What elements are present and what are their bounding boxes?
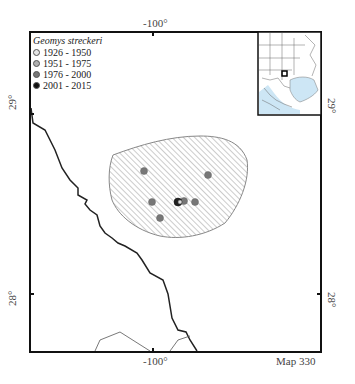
state-boundary — [95, 332, 150, 351]
left-latitude-28-label: 28° — [6, 291, 18, 306]
legend-item: 1951 - 1975 — [33, 58, 102, 69]
inset-map — [258, 32, 321, 115]
legend-item: 1926 - 1950 — [33, 47, 102, 58]
legend-item-label: 1926 - 1950 — [43, 47, 91, 58]
legend-item: 2001 - 2015 — [33, 80, 102, 91]
map-number-label: Map 330 — [276, 355, 315, 367]
bottom-longitude-label: -100° — [143, 355, 168, 367]
legend: Geomys streckeri 1926 - 1950 1951 - 1975… — [33, 35, 102, 91]
legend-dot-icon — [33, 71, 40, 78]
right-latitude-28-label: 28° — [326, 292, 338, 307]
legend-title: Geomys streckeri — [33, 35, 102, 46]
legend-item-label: 2001 - 2015 — [43, 80, 91, 91]
legend-item-label: 1951 - 1975 — [43, 58, 91, 69]
state-boundary-2 — [170, 336, 190, 351]
legend-dot-icon — [33, 49, 40, 56]
legend-item: 1976 - 2000 — [33, 69, 102, 80]
range-polygon — [109, 136, 247, 237]
left-latitude-29-label: 29° — [6, 95, 18, 110]
right-latitude-29-label: 29° — [326, 98, 338, 113]
legend-dot-icon — [33, 82, 40, 89]
top-longitude-label: -100° — [143, 17, 168, 29]
legend-dot-icon — [33, 60, 40, 67]
legend-item-label: 1976 - 2000 — [43, 69, 91, 80]
